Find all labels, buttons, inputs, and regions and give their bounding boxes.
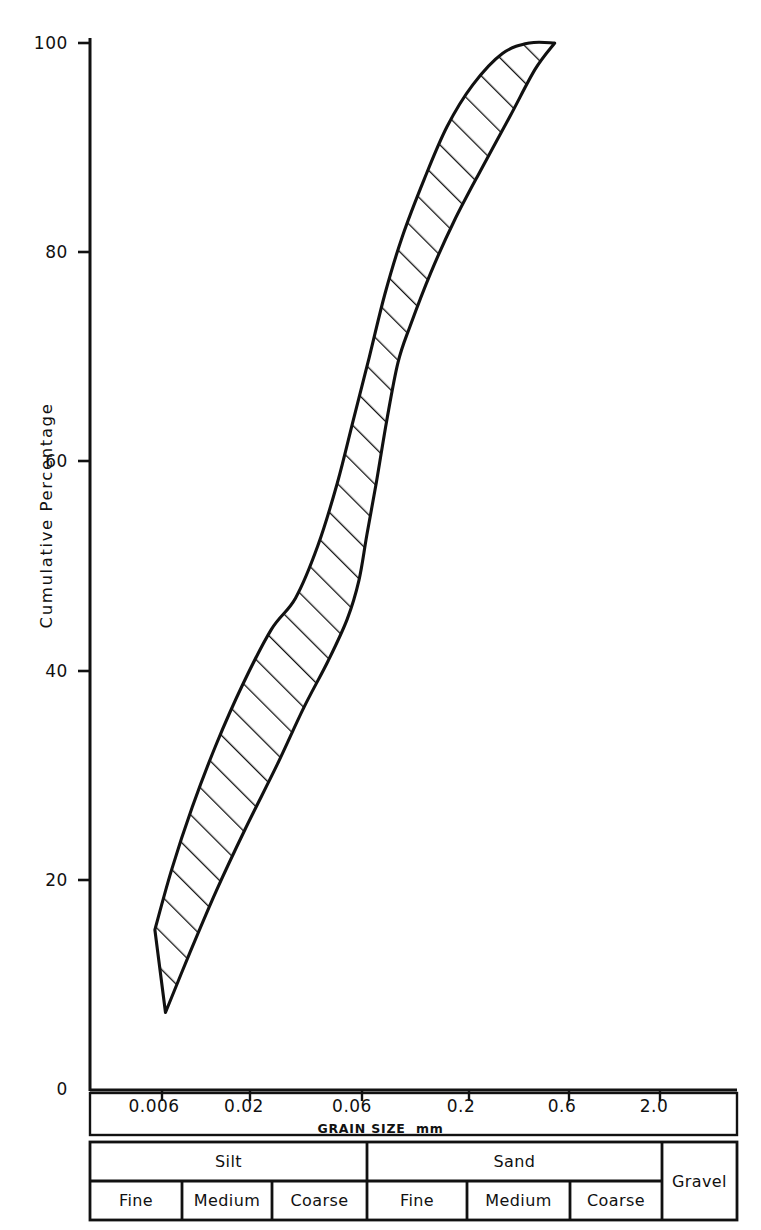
class-minor-sand-fine: Fine	[367, 1181, 467, 1220]
y-tick-label-60: 60	[8, 451, 68, 471]
x-tick-label-006: 0.06	[332, 1096, 372, 1116]
y-tick-label-80: 80	[8, 242, 68, 262]
class-major-sand: Sand	[367, 1142, 662, 1181]
y-tick-label-20: 20	[8, 870, 68, 890]
y-axis	[78, 38, 90, 1091]
x-tick-label-02: 0.2	[447, 1096, 476, 1116]
class-major-silt: Silt	[90, 1142, 367, 1181]
x-axis-title: GRAIN SIZE mm	[0, 1121, 761, 1136]
x-tick-label-0006: 0.006	[128, 1096, 179, 1116]
y-axis-title: Cumulative Percentage	[37, 366, 56, 666]
class-minor-silt-medium: Medium	[182, 1181, 272, 1220]
x-tick-label-06: 0.6	[548, 1096, 577, 1116]
x-tick-label-002: 0.02	[224, 1096, 264, 1116]
y-tick-label-40: 40	[8, 661, 68, 681]
envelope-band	[155, 42, 555, 1012]
class-minor-silt-fine: Fine	[90, 1181, 182, 1220]
grain-size-distribution-figure: Cumulative Percentage 100 80 60 40 20 0 …	[0, 0, 761, 1230]
class-minor-sand-coarse: Coarse	[570, 1181, 662, 1220]
x-tick-label-20: 2.0	[640, 1096, 669, 1116]
class-minor-sand-medium: Medium	[467, 1181, 570, 1220]
y-tick-label-0: 0	[8, 1079, 68, 1099]
class-minor-silt-coarse: Coarse	[272, 1181, 367, 1220]
y-tick-label-100: 100	[8, 33, 68, 53]
x-axis-title-main: GRAIN SIZE	[317, 1121, 405, 1136]
chart-canvas	[0, 0, 761, 1230]
x-axis-unit: mm	[416, 1121, 444, 1136]
class-major-gravel: Gravel	[662, 1142, 737, 1220]
